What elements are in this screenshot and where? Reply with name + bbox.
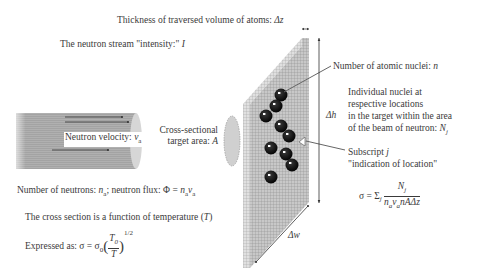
expressed-formula: Expressed as: σ = σ0(T0T)1/2 (25, 228, 133, 260)
dh-arrow (318, 38, 321, 203)
leader-line-subscript (306, 141, 345, 150)
velocity-label: Neutron velocity: va (64, 132, 142, 147)
neutrons-flux-label: Number of neutrons: na; neutron flux: Φ … (17, 185, 195, 200)
temperature-label: The cross section is a function of tempe… (25, 212, 212, 223)
dw-label: Δw (288, 230, 300, 241)
dh-label: Δh (326, 110, 336, 121)
thickness-label: Thickness of traversed volume of atoms: … (117, 15, 284, 26)
cross-section-ellipse (224, 116, 240, 166)
nucleus (260, 110, 273, 123)
individual-nuclei-label: Individual nuclei at respective location… (348, 86, 452, 138)
nucleus (283, 130, 296, 143)
nucleus (265, 142, 278, 155)
nucleus (280, 148, 293, 161)
subscript-label: Subscript j "indication of location" (348, 146, 437, 170)
nuclei-count-label: Number of atomic nuclei: n (333, 61, 438, 72)
nucleus (286, 159, 299, 172)
cross-section-label: Cross-sectional target area: A (152, 125, 218, 147)
nucleus (265, 171, 278, 184)
nucleus (270, 100, 283, 113)
cross-section-formula: σ = Σj Nj navanAΔz (359, 181, 420, 212)
dz-arrow (302, 28, 309, 30)
intensity-label: The neutron stream "intensity:" I (60, 39, 185, 50)
